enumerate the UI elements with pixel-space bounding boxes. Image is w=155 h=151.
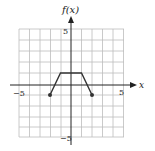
y-max-label: 5	[63, 27, 68, 36]
x-min-label: −5	[13, 89, 25, 98]
y-axis-arrow-icon	[68, 16, 74, 23]
axes	[10, 22, 132, 145]
x-axis-label: x	[139, 80, 144, 90]
right-endpoint-dot	[90, 93, 94, 97]
x-axis-arrow-icon	[130, 82, 137, 88]
y-axis-label: f(x)	[61, 4, 79, 15]
x-max-label: 5	[119, 88, 124, 97]
y-min-label: −5	[60, 134, 72, 143]
function-graph: f(x) x −5 5 5 −5	[0, 0, 155, 151]
left-endpoint-dot	[48, 93, 52, 97]
